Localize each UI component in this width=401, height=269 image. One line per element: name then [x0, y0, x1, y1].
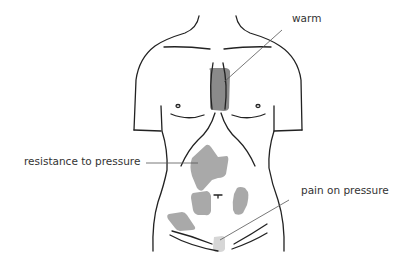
resistance-region-mid-left [191, 191, 211, 215]
arm-left-edge [134, 130, 161, 131]
label-resistance-to-pressure: resistance to pressure [24, 156, 140, 167]
label-warm: warm [292, 13, 321, 24]
clavicle-right [224, 47, 271, 49]
nipple-right [256, 105, 260, 108]
navel [214, 195, 222, 198]
nipple-left [176, 105, 180, 108]
resistance-region-lower-left [167, 212, 195, 231]
leader-line-warm [224, 30, 282, 82]
neck-left-outline [134, 16, 199, 130]
torso-left-side [153, 106, 167, 251]
torso-right-side [269, 106, 284, 251]
resistance-region-mid-right [233, 187, 249, 215]
inguinal-left-upper [172, 231, 212, 244]
arm-right-edge [274, 130, 302, 131]
clavicle-left [164, 47, 210, 49]
resistance-region-upper [191, 145, 229, 191]
leader-line-pain [220, 200, 289, 240]
torso-illustration [0, 0, 401, 269]
neck-right-outline [236, 16, 302, 130]
pectoral-right [232, 114, 265, 118]
label-pain-on-pressure: pain on pressure [301, 185, 389, 196]
warm-region [209, 68, 230, 111]
torso-diagram: warm resistance to pressure pain on pres… [0, 0, 401, 269]
pectoral-left [171, 114, 204, 118]
